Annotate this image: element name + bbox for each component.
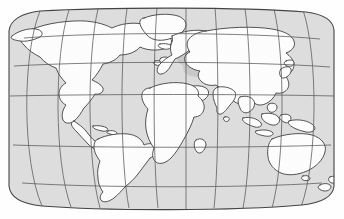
land-new-zealand-south bbox=[318, 184, 331, 191]
land-japan-north bbox=[284, 60, 294, 66]
world-map-canvas bbox=[0, 0, 344, 219]
world-map-figure: World map Grayscale world map in an oval… bbox=[0, 0, 344, 219]
land-philippines bbox=[267, 103, 277, 112]
land-sri-lanka bbox=[223, 117, 229, 122]
